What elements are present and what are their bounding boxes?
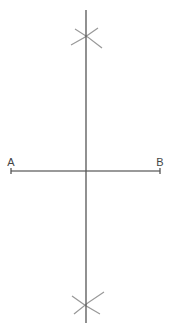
point-a-label: A xyxy=(7,156,15,168)
top-arc-1 xyxy=(71,28,98,45)
bottom-arc-2 xyxy=(74,292,104,314)
perpendicular-bisector-diagram: A B xyxy=(0,0,181,323)
construction-canvas: A B xyxy=(0,0,181,323)
top-arc-2 xyxy=(75,29,102,48)
point-b-label: B xyxy=(156,156,163,168)
